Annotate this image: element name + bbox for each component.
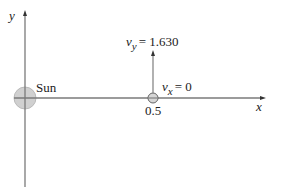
vx-value: = 0 — [175, 79, 192, 94]
vx-label: vx= 0 — [162, 79, 192, 97]
y-axis-arrowhead-icon — [23, 10, 27, 16]
vx-subscript: x — [167, 85, 173, 97]
orbit-diagram: y x Sun 0.5 vy= 1.630 vx= 0 — [0, 0, 281, 187]
vy-label: vy= 1.630 — [126, 34, 179, 52]
sun-label: Sun — [36, 80, 57, 95]
y-axis-label: y — [7, 8, 15, 23]
vy-value: = 1.630 — [139, 34, 179, 49]
planet-position-label: 0.5 — [145, 103, 161, 118]
x-axis-label: x — [255, 99, 262, 114]
velocity-arrowhead-icon — [151, 50, 155, 56]
vy-subscript: y — [131, 40, 137, 52]
